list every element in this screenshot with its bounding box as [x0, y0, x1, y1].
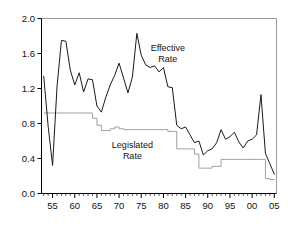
y-tick-label-1.6: 1.6: [22, 48, 35, 59]
effective-rate-label-line2: Rate: [158, 54, 177, 64]
y-tick-label-0.8: 0.8: [22, 118, 35, 129]
x-tick-label-95: 95: [225, 200, 236, 211]
effective-rate-label: Effective: [151, 43, 185, 53]
legislated-rate-label: Legislated: [112, 140, 153, 150]
y-axis-ticks: [38, 19, 42, 194]
x-tick-label-60: 60: [69, 200, 80, 211]
x-axis-tick-labels: 5560657075808590950005: [47, 200, 279, 211]
x-tick-label-80: 80: [158, 200, 169, 211]
chart-container: 0.00.40.81.21.62.0 556065707580859095000…: [0, 0, 295, 228]
legislated-rate-series: [44, 113, 275, 180]
x-tick-label-90: 90: [202, 200, 213, 211]
y-tick-label-0.0: 0.0: [22, 188, 35, 199]
y-tick-label-0.4: 0.4: [22, 153, 35, 164]
x-axis-ticks: [53, 194, 275, 199]
y-tick-label-2.0: 2.0: [22, 13, 35, 24]
x-tick-label-05: 05: [269, 200, 280, 211]
y-tick-label-1.2: 1.2: [22, 83, 35, 94]
line-chart: 0.00.40.81.21.62.0 556065707580859095000…: [0, 0, 295, 228]
x-tick-label-85: 85: [180, 200, 191, 211]
x-tick-label-65: 65: [92, 200, 103, 211]
legislated-rate-label-line2: Rate: [123, 151, 142, 161]
x-tick-label-00: 00: [247, 200, 258, 211]
x-tick-label-75: 75: [136, 200, 147, 211]
x-tick-label-70: 70: [114, 200, 125, 211]
x-tick-label-55: 55: [47, 200, 58, 211]
y-axis-tick-labels: 0.00.40.81.21.62.0: [22, 13, 35, 199]
